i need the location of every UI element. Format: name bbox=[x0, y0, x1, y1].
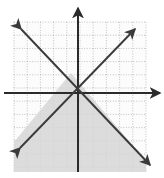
graph-figure bbox=[0, 0, 164, 178]
coordinate-plane-graph bbox=[0, 0, 164, 178]
